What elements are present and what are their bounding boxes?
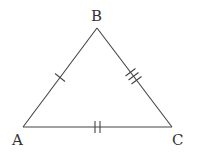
tick-bc-2 [129,73,139,81]
vertex-label-a: A [11,131,23,149]
triangle-diagram: A B C [0,0,209,154]
tick-ab-1 [55,74,65,82]
vertex-label-b: B [91,7,102,25]
tick-bc-1 [126,69,136,77]
triangle-abc [23,28,172,127]
tick-marks [55,69,142,134]
vertex-label-c: C [172,131,183,149]
tick-bc-3 [132,77,142,85]
side-bc [97,28,172,127]
